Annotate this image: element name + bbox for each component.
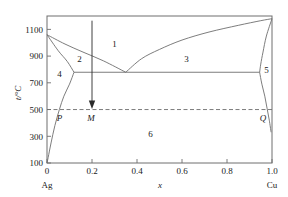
- point-label-q: Q: [260, 113, 267, 123]
- region-label-2: 2: [77, 54, 82, 64]
- x-tick-label-3: 0.6: [176, 166, 188, 176]
- y-axis-ticks: [47, 29, 51, 163]
- x-tick-label-2: 0.4: [131, 166, 143, 176]
- region-label-5: 5: [264, 65, 269, 75]
- x-tick-label-4: 0.8: [221, 166, 233, 176]
- phase-diagram-figure: 100 300 500 700 900 1100 0 0.2 0.4 0.6 0…: [0, 0, 288, 197]
- region-label-4: 4: [57, 69, 62, 79]
- plot-frame: [47, 16, 272, 163]
- left-component-label: Ag: [42, 180, 53, 190]
- x-tick-label-1: 0.2: [86, 166, 97, 176]
- solvus-cu-side-curve: [260, 72, 271, 132]
- region-label-3: 3: [184, 54, 189, 64]
- point-label-p: P: [56, 113, 63, 123]
- cooling-path-arrow: [89, 21, 95, 109]
- y-tick-label-3: 700: [30, 78, 44, 88]
- solidus-ag-side-curve: [47, 35, 74, 73]
- y-tick-label-0: 100: [30, 158, 44, 168]
- region-label-6: 6: [148, 129, 153, 139]
- y-tick-label-1: 300: [30, 132, 44, 142]
- x-axis-title: x: [157, 180, 162, 190]
- x-tick-label-5: 1.0: [266, 166, 278, 176]
- x-tick-label-0: 0: [45, 166, 50, 176]
- right-component-label: Cu: [267, 180, 278, 190]
- y-tick-label-4: 900: [30, 51, 44, 61]
- y-tick-label-5: 1100: [25, 25, 43, 35]
- phase-diagram-svg: 100 300 500 700 900 1100 0 0.2 0.4 0.6 0…: [0, 0, 288, 197]
- point-label-m: M: [86, 113, 95, 123]
- liquidus-cu-side-curve: [126, 19, 272, 73]
- y-tick-label-2: 500: [30, 105, 44, 115]
- y-axis-title: t/°C: [13, 85, 23, 101]
- region-label-1: 1: [112, 39, 117, 49]
- x-axis-ticks: [47, 159, 272, 163]
